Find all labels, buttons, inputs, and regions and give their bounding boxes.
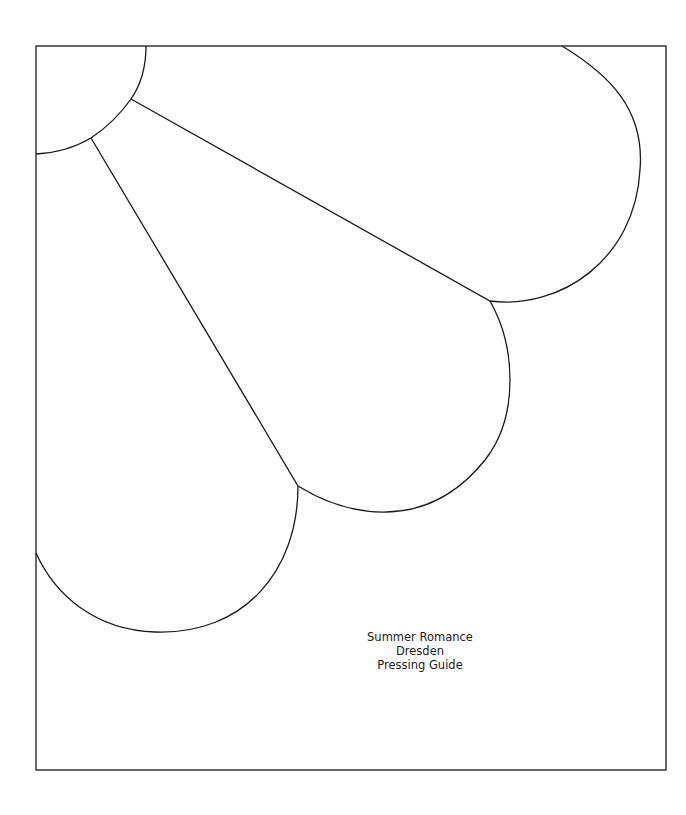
pressing-guide-caption: Summer Romance Dresden Pressing Guide [330, 630, 510, 672]
upper-petal [131, 46, 640, 302]
caption-title: Summer Romance [330, 630, 510, 644]
caption-pattern-name: Dresden [330, 644, 510, 658]
lower-petal [36, 486, 298, 632]
pressing-guide-drawing [0, 0, 686, 815]
center-quarter-circle [36, 46, 146, 154]
caption-subtitle: Pressing Guide [330, 658, 510, 672]
